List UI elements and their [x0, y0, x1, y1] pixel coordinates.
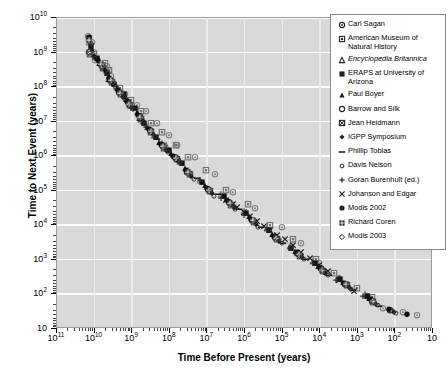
legend-item-3[interactable]: ERAPS at University of Arizona [335, 68, 442, 86]
y-axis-minor-tick [53, 318, 56, 319]
x-axis-minor-tick [273, 328, 274, 331]
circle-small-open-icon [335, 160, 348, 171]
legend-item-11[interactable]: Johanson and Edgar [335, 189, 442, 200]
x-axis-minor-tick [123, 328, 124, 331]
legend-item-6[interactable]: Jean Heidmann [335, 118, 442, 129]
chart-figure: 1011101010910810710610510410310210101010… [0, 0, 448, 379]
circle-filled-icon [335, 203, 348, 214]
y-axis-minor-tick [53, 182, 56, 183]
data-point [228, 196, 236, 214]
x-axis-title: Time Before Present (years) [56, 352, 432, 363]
legend-item-1[interactable]: American Museum of Natural History [335, 33, 442, 51]
legend-item-label: ERAPS at University of Arizona [348, 68, 442, 86]
x-axis-minor-tick [386, 328, 387, 331]
y-axis-tick [51, 259, 56, 260]
y-axis-minor-tick [53, 150, 56, 151]
y-axis-minor-tick [53, 251, 56, 252]
legend-item-5[interactable]: Barrow and Silk [335, 104, 442, 115]
x-axis-minor-tick [128, 328, 129, 331]
data-point [389, 302, 397, 320]
x-axis-tick-label: 102 [374, 333, 414, 343]
legend-item-label: Encyclopedia Britannica [348, 54, 427, 63]
legend-item-10[interactable]: Goran Burenhult (ed.) [335, 175, 442, 186]
y-axis-title: Time to Next Event (years) [27, 36, 38, 276]
y-axis-minor-tick [53, 166, 56, 167]
y-axis-minor-tick [53, 320, 56, 321]
legend-item-label: Davis Nelson [348, 160, 392, 169]
x-axis-minor-tick [79, 328, 80, 331]
x-axis-tick-label: 108 [149, 333, 189, 343]
data-point [126, 96, 134, 114]
x-axis-minor-tick [270, 328, 271, 331]
legend-item-13[interactable]: Richard Coren [335, 217, 442, 228]
diamond-filled-icon [335, 132, 348, 143]
x-axis-minor-tick [125, 328, 126, 331]
data-point [296, 247, 304, 265]
y-axis-tick-label: 10 [13, 323, 47, 333]
data-point [117, 85, 125, 103]
x-axis-minor-tick [342, 328, 343, 331]
legend-item-4[interactable]: Paul Boyer [335, 89, 442, 100]
x-axis-minor-tick [412, 328, 413, 331]
legend-item-7[interactable]: IGPP Symposium [335, 132, 442, 143]
y-axis-tick [51, 17, 56, 18]
x-axis-minor-tick [187, 328, 188, 331]
gridline-vertical [131, 17, 132, 328]
square-filled-icon [335, 68, 348, 79]
x-axis-minor-tick [82, 328, 83, 331]
x-axis-minor-tick [375, 328, 376, 331]
gridline-vertical [319, 17, 320, 328]
legend-item-0[interactable]: Carl Sagan [335, 19, 442, 30]
x-axis-minor-tick [308, 328, 309, 331]
x-axis-minor-tick [105, 328, 106, 331]
legend-item-14[interactable]: Modis 2003 [335, 231, 442, 242]
data-point [206, 182, 214, 200]
y-axis-minor-tick [53, 206, 56, 207]
x-axis-minor-tick [240, 328, 241, 331]
x-axis-minor-tick [417, 328, 418, 331]
x-axis-minor-tick [316, 328, 317, 331]
legend-item-8[interactable]: Phillip Tobias [335, 146, 442, 157]
y-axis-minor-tick [53, 283, 56, 284]
gridline-vertical [56, 17, 57, 328]
x-axis-tick-label: 106 [224, 333, 264, 343]
legend-item-label: Goran Burenhult (ed.) [348, 175, 419, 184]
legend-item-2[interactable]: Encyclopedia Britannica [335, 54, 442, 65]
y-axis-minor-tick [53, 245, 56, 246]
legend-item-12[interactable]: Modis 2002 [335, 203, 442, 214]
x-axis-tick-label: 1010 [74, 333, 114, 343]
legend-item-label: Paul Boyer [348, 89, 384, 98]
x-axis-minor-tick [229, 328, 230, 331]
y-axis-minor-tick [53, 172, 56, 173]
y-axis-minor-tick [53, 115, 56, 116]
y-axis-minor-tick [53, 131, 56, 132]
data-point [161, 138, 169, 156]
y-axis-minor-tick [53, 62, 56, 63]
data-point [98, 57, 106, 75]
x-axis-minor-tick [278, 328, 279, 331]
y-axis-minor-tick [53, 103, 56, 104]
x-axis-minor-tick [233, 328, 234, 331]
y-axis-minor-tick [53, 44, 56, 45]
y-axis-minor-tick [53, 217, 56, 218]
data-point [305, 248, 313, 266]
data-point [273, 230, 281, 248]
x-axis-minor-tick [255, 328, 256, 331]
gridline-vertical [244, 17, 245, 328]
x-axis-minor-tick [353, 328, 354, 331]
y-axis-minor-tick [53, 41, 56, 42]
x-axis-minor-tick [112, 328, 113, 331]
x-axis-tick-label: 107 [186, 333, 226, 343]
legend-item-9[interactable]: Davis Nelson [335, 160, 442, 171]
x-axis-minor-tick [426, 328, 427, 331]
legend-item-label: Johanson and Edgar [348, 189, 416, 198]
legend-item-label: Richard Coren [348, 217, 396, 226]
x-axis-tick-label: 109 [111, 333, 151, 343]
y-axis-minor-tick [53, 68, 56, 69]
x-axis-minor-tick [383, 328, 384, 331]
y-axis-tick [51, 52, 56, 53]
data-point [319, 262, 327, 280]
y-axis-minor-tick [53, 141, 56, 142]
x-axis-minor-tick [67, 328, 68, 331]
x-axis-minor-tick [348, 328, 349, 331]
